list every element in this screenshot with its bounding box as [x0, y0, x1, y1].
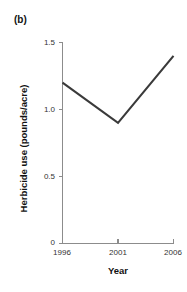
- y-axis-title: Herbicide use (pounds/acre): [18, 49, 29, 249]
- y-tick-label-1-5: 1.5: [33, 39, 55, 47]
- x-tick-label-2006: 2006: [164, 249, 182, 257]
- x-tick-label-2001: 2001: [109, 249, 127, 257]
- figure-panel-b: (b) 0 0.5 1.0 1.5 1996 2001 2006 Herbici…: [0, 0, 187, 292]
- y-tick-label-1-0: 1.0: [33, 106, 55, 114]
- y-tick-label-0: 0: [36, 239, 55, 247]
- x-axis-title: Year: [62, 265, 174, 276]
- y-tick-label-0-5: 0.5: [33, 173, 55, 181]
- data-series-herbicide-use: [63, 56, 174, 123]
- x-tick-label-1996: 1996: [53, 249, 71, 257]
